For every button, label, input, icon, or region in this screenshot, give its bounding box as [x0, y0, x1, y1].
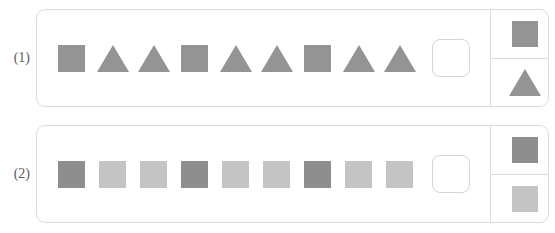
sequence-item [51, 9, 92, 107]
problem-card-2 [36, 125, 549, 223]
square-shape [304, 161, 331, 188]
triangle-shape [220, 45, 252, 72]
sequence-item [133, 9, 174, 107]
triangle-shape [97, 45, 129, 72]
sequence-item [297, 125, 338, 223]
square-shape [140, 161, 167, 188]
sequence-item [92, 125, 133, 223]
problem-label-1: (1) [0, 51, 36, 65]
square-shape [263, 161, 290, 188]
triangle-shape [384, 45, 416, 72]
options-panel-1 [490, 10, 549, 106]
triangle-shape [509, 69, 541, 96]
square-shape [512, 137, 538, 163]
triangle-shape [343, 45, 375, 72]
sequence-item [92, 9, 133, 107]
square-shape [304, 45, 331, 72]
square-shape [345, 161, 372, 188]
square-shape [386, 161, 413, 188]
blank-slot-cell[interactable] [420, 125, 482, 223]
problem-row-2: (2) [0, 124, 549, 224]
square-shape [512, 21, 538, 47]
square-shape [181, 45, 208, 72]
sequence-item [215, 9, 256, 107]
blank-slot-cell[interactable] [420, 9, 482, 107]
sequence-item [174, 125, 215, 223]
pattern-completion-worksheet: (1) [0, 0, 555, 233]
triangle-shape [261, 45, 293, 72]
option-choice-bottom[interactable] [491, 58, 549, 106]
option-choice-bottom[interactable] [491, 174, 549, 222]
sequence-strip-1 [37, 10, 490, 106]
sequence-item [338, 125, 379, 223]
problem-label-2: (2) [0, 167, 36, 181]
square-shape [512, 186, 538, 212]
sequence-item [256, 125, 297, 223]
sequence-item [215, 125, 256, 223]
sequence-item [174, 9, 215, 107]
triangle-shape [138, 45, 170, 72]
sequence-item [379, 125, 420, 223]
square-shape [58, 161, 85, 188]
options-panel-2 [490, 126, 549, 222]
answer-blank-slot[interactable] [432, 155, 470, 193]
problem-card-1 [36, 9, 549, 107]
answer-blank-slot[interactable] [432, 39, 470, 77]
sequence-item [379, 9, 420, 107]
problem-row-1: (1) [0, 8, 549, 108]
option-choice-top[interactable] [491, 126, 549, 174]
sequence-item [133, 125, 174, 223]
square-shape [58, 45, 85, 72]
sequence-item [51, 125, 92, 223]
option-choice-top[interactable] [491, 10, 549, 58]
sequence-item [338, 9, 379, 107]
sequence-item [297, 9, 338, 107]
square-shape [222, 161, 249, 188]
square-shape [181, 161, 208, 188]
square-shape [99, 161, 126, 188]
sequence-item [256, 9, 297, 107]
sequence-strip-2 [37, 126, 490, 222]
